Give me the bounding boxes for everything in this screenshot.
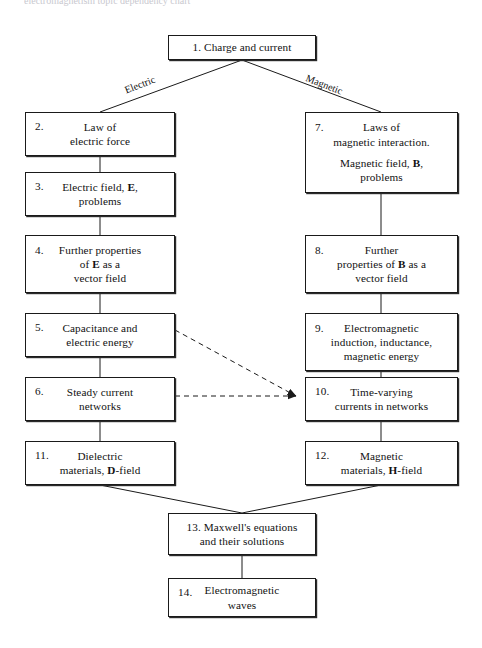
node-5-number: 5. xyxy=(35,320,44,334)
flowchart-page: electromagnetism topic dependency chart xyxy=(0,0,482,648)
node-6-line-0: Steady current xyxy=(67,385,133,399)
node-10-line-0: Time-varying xyxy=(350,385,412,399)
edge-1-2 xyxy=(100,60,242,112)
node-8-line-0: Further xyxy=(365,243,399,257)
node-7-number: 7. xyxy=(315,120,324,134)
node-4-number: 4. xyxy=(35,243,44,257)
node-3-line-1: problems xyxy=(79,194,121,208)
node-7-line-0: Laws of xyxy=(363,120,400,134)
node-1: 1. Charge and current xyxy=(168,35,316,60)
node-11-line-1: materials, D-field xyxy=(60,463,141,477)
node-4-line-1: of E as a xyxy=(80,257,120,271)
node-3-line-0: Electric field, E, xyxy=(62,180,138,194)
node-10-number: 10. xyxy=(315,384,329,398)
node-4-line-0: Further properties xyxy=(59,243,141,257)
node-5-line-0: Capacitance and xyxy=(62,321,137,335)
node-10: 10.Time-varyingcurrents in networks xyxy=(305,377,458,421)
node-11: 11.Dielectricmaterials, D-field xyxy=(25,441,175,485)
node-13-line-0: 13. Maxwell's equations xyxy=(187,520,298,534)
node-6-line-1: networks xyxy=(79,399,121,413)
node-7-line-1: magnetic interaction. xyxy=(333,135,430,149)
node-3: 3.Electric field, E,problems xyxy=(25,172,175,216)
node-9-line-2: magnetic energy xyxy=(344,349,420,363)
node-9-number: 9. xyxy=(315,321,324,335)
node-2-line-1: electric force xyxy=(70,134,130,148)
node-7-line-2: Magnetic field, B, xyxy=(340,156,423,170)
node-14-number: 14. xyxy=(178,585,192,599)
node-4: 4.Further propertiesof E as avector fiel… xyxy=(25,235,175,293)
node-4-line-2: vector field xyxy=(74,271,126,285)
node-9-line-1: induction, inductance, xyxy=(331,335,432,349)
edge-11-13 xyxy=(100,485,242,513)
node-2-line-0: Law of xyxy=(84,120,117,134)
node-12-line-1: materials, H-field xyxy=(341,463,422,477)
node-6: 6.Steady currentnetworks xyxy=(25,377,175,421)
node-13: 13. Maxwell's equationsand their solutio… xyxy=(168,513,316,555)
node-9: 9.Electromagneticinduction, inductance,m… xyxy=(305,313,458,371)
node-11-line-0: Dielectric xyxy=(77,449,122,463)
node-8-line-2: vector field xyxy=(355,271,407,285)
node-14-line-0: Electromagnetic xyxy=(205,583,280,597)
node-7-line-3: problems xyxy=(360,170,402,184)
node-8-line-1: properties of B as a xyxy=(337,257,426,271)
edge-1-7 xyxy=(242,60,381,112)
node-2-number: 2. xyxy=(35,119,44,133)
node-1-line-0: 1. Charge and current xyxy=(193,40,292,54)
node-10-line-1: currents in networks xyxy=(335,399,428,413)
node-3-number: 3. xyxy=(35,179,44,193)
node-7: 7.Laws ofmagnetic interaction.Magnetic f… xyxy=(305,112,458,193)
node-12: 12.Magneticmaterials, H-field xyxy=(305,441,458,485)
node-2: 2.Law ofelectric force xyxy=(25,112,175,156)
node-6-number: 6. xyxy=(35,384,44,398)
node-14: 14.Electromagneticwaves xyxy=(168,578,316,617)
node-14-line-1: waves xyxy=(228,598,256,612)
node-8: 8.Furtherproperties of B as avector fiel… xyxy=(305,235,458,293)
node-5: 5.Capacitance andelectric energy xyxy=(25,313,175,357)
caption-fragment: electromagnetism topic dependency chart xyxy=(24,0,444,7)
node-9-line-0: Electromagnetic xyxy=(344,321,419,335)
edge-12-13 xyxy=(242,485,381,513)
node-11-number: 11. xyxy=(35,448,49,462)
node-13-line-1: and their solutions xyxy=(200,534,285,548)
edge-5-10 xyxy=(175,330,296,396)
label-electric: Electric xyxy=(123,74,157,96)
node-5-line-1: electric energy xyxy=(66,335,133,349)
node-12-line-0: Magnetic xyxy=(360,449,403,463)
node-8-number: 8. xyxy=(315,243,324,257)
node-12-number: 12. xyxy=(315,448,329,462)
label-magnetic: Magnetic xyxy=(304,72,344,96)
